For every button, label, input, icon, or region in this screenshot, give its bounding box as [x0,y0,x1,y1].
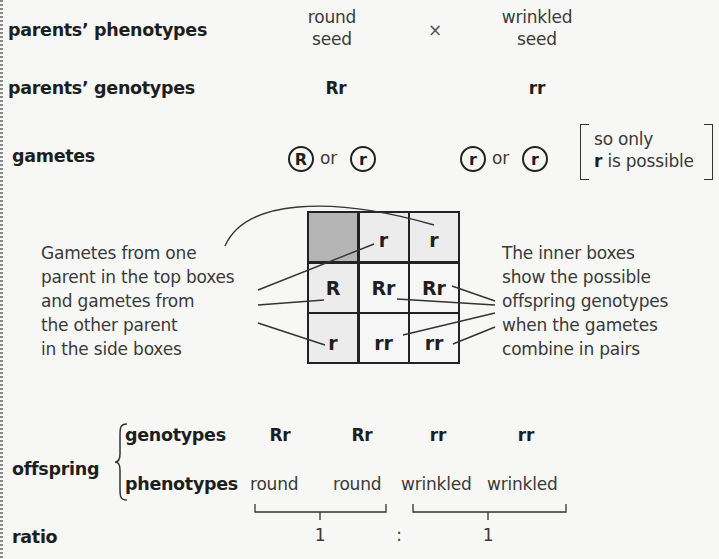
gamete-circle-r-1: r [350,146,376,172]
parent1-phenotype-line1: round [308,6,356,28]
offspring-genotype-4: rr [518,425,534,445]
gametes-note-line1: so only [594,128,694,150]
genotypes-label: genotypes [125,425,226,445]
ratio-right-value: 1 [483,525,494,545]
punnett-side-header-1: R [309,264,357,312]
left-annotation-line: and gametes from [41,289,235,313]
ratio-label: ratio [12,527,57,547]
punnett-cell-2-1: rr [360,314,408,362]
parent2-phenotype-line2: seed [502,28,573,50]
gamete-circle-r-3: r [522,146,548,172]
punnett-corner-cell [309,213,357,261]
offspring-genotype-1: Rr [269,425,290,445]
ratio-left-value: 1 [315,525,326,545]
offspring-phenotype-1: round [250,474,298,494]
punnett-top-header-1: r [360,213,408,261]
parent2-genotype: rr [529,78,545,98]
offspring-label: offspring [12,459,99,479]
punnett-cell-2-2: rr [410,314,458,362]
gamete-r-letter: r [531,150,539,169]
offspring-phenotype-4: wrinkled [487,474,558,494]
parents-phenotypes-label: parents’ phenotypes [8,20,207,40]
gametes-note: so only r is possible [594,128,694,172]
punnett-cell-1-1: Rr [360,264,408,312]
gametes-note-rest: is possible [602,151,694,171]
parent2-phenotype-line1: wrinkled [502,6,573,28]
gamete-r-letter: r [359,150,367,169]
parent1-genotype: Rr [325,78,346,98]
left-annotation-line: Gametes from one [41,241,235,265]
note-bracket-left [580,124,589,180]
right-annotation: The inner boxes show the possible offspr… [502,241,668,361]
left-annotation: Gametes from one parent in the top boxes… [41,241,235,361]
note-bracket-right [704,124,713,180]
right-annotation-line: combine in pairs [502,337,668,361]
punnett-cell-1-2: Rr [410,264,458,312]
gamete-circle-R: R [288,146,314,172]
right-annotation-line: show the possible [502,265,668,289]
right-annotation-line: The inner boxes [502,241,668,265]
punnett-top-header-2: r [410,213,458,261]
offspring-phenotype-2: round [333,474,381,494]
dotted-page-border [0,0,3,559]
right-annotation-line: offspring genotypes [502,289,668,313]
left-annotation-line: parent in the top boxes [41,265,235,289]
offspring-genotype-2: Rr [351,425,372,445]
punnett-side-header-2: r [309,314,357,362]
parents-genotypes-label: parents’ genotypes [8,78,195,98]
offspring-phenotype-3: wrinkled [401,474,472,494]
parent1-phenotype: round seed [308,6,356,50]
right-annotation-line: when the gametes [502,313,668,337]
parent1-phenotype-line2: seed [308,28,356,50]
left-annotation-line: the other parent [41,313,235,337]
punnett-square: r r R Rr Rr r rr rr [307,211,460,364]
parent2-phenotype: wrinkled seed [502,6,573,50]
offspring-genotype-3: rr [430,425,446,445]
left-annotation-line: in the side boxes [41,337,235,361]
gamete-R-letter: R [295,150,307,169]
phenotypes-label: phenotypes [125,474,238,494]
gamete-circle-r-2: r [460,146,486,172]
ratio-separator: : [396,525,402,545]
gametes-note-line2: r is possible [594,150,694,172]
gamete-or-2: or [492,148,509,168]
cross-symbol: × [428,20,442,40]
gametes-label: gametes [12,146,95,166]
gamete-r-letter: r [469,150,477,169]
gametes-note-r: r [594,151,602,171]
gamete-or-1: or [320,148,337,168]
